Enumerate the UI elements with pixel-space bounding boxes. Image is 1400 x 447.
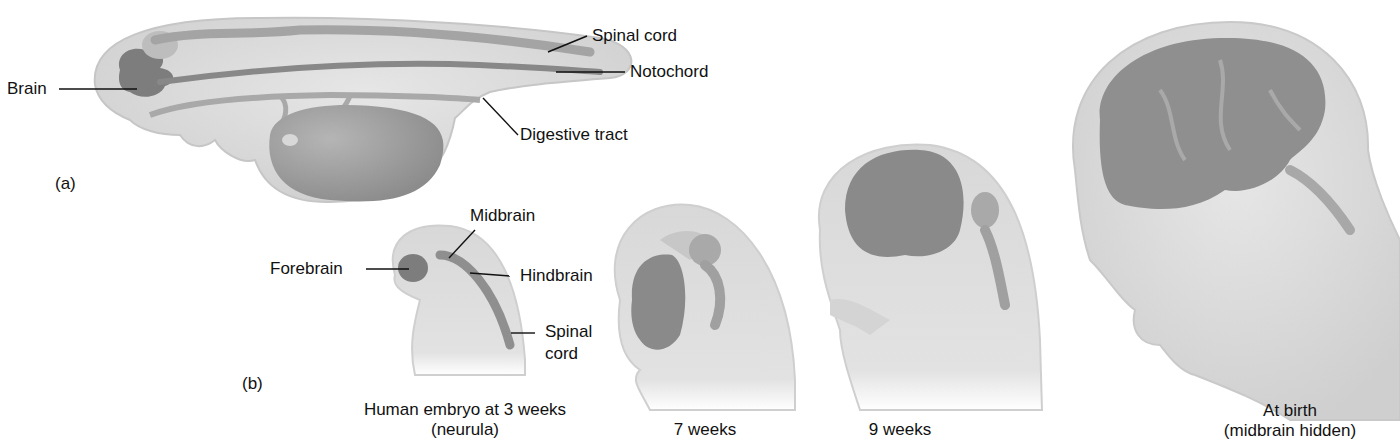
caption-3-weeks: Human embryo at 3 weeks (neurula) [330, 400, 600, 440]
label-notochord: Notochord [630, 62, 708, 82]
embryo-7-weeks [615, 205, 795, 410]
label-spinal-cord-a: Spinal cord [592, 26, 677, 46]
head-at-birth [1073, 22, 1400, 420]
label-hindbrain: Hindbrain [520, 266, 593, 286]
caption-3-weeks-line2: (neurula) [330, 420, 600, 440]
caption-at-birth: At birth (midbrain hidden) [1180, 401, 1400, 441]
panel-b-marker: (b) [242, 374, 263, 394]
label-forebrain: Forebrain [270, 259, 343, 279]
caption-7-weeks: 7 weeks [620, 420, 790, 440]
label-spinal-cord-b-line1: Spinal [545, 322, 592, 342]
caption-9-weeks-line1: 9 weeks [800, 420, 1000, 440]
label-brain: Brain [7, 79, 47, 99]
caption-9-weeks: 9 weeks [800, 420, 1000, 440]
label-midbrain: Midbrain [470, 206, 535, 226]
panel-a-marker: (a) [55, 174, 76, 194]
label-digestive-tract: Digestive tract [520, 125, 628, 145]
caption-at-birth-line2: (midbrain hidden) [1180, 421, 1400, 441]
panel-a-embryo [95, 18, 632, 202]
caption-at-birth-line1: At birth [1180, 401, 1400, 421]
label-spinal-cord-b-line2: cord [545, 344, 578, 364]
caption-3-weeks-line1: Human embryo at 3 weeks [330, 400, 600, 420]
embryo-9-weeks [819, 144, 1042, 410]
caption-7-weeks-line1: 7 weeks [620, 420, 790, 440]
